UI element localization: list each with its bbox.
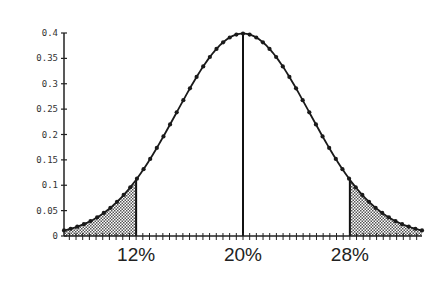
- curve-marker: [108, 206, 112, 210]
- normal-distribution-chart: 00.050.10.150.20.250.30.350.4 12%20%28%: [0, 0, 448, 283]
- curve-marker: [128, 185, 132, 189]
- y-tick-label: 0.25: [36, 104, 58, 114]
- curve-marker: [314, 122, 318, 126]
- curve-marker: [95, 215, 99, 219]
- curve-marker: [115, 200, 119, 204]
- curve-marker: [82, 222, 86, 226]
- x-tick-label: 28%: [331, 244, 369, 265]
- curve-marker: [88, 219, 92, 223]
- curve-marker: [274, 55, 278, 59]
- y-tick-label: 0.05: [36, 206, 58, 216]
- curve-marker: [175, 110, 179, 114]
- curve-marker: [168, 122, 172, 126]
- curve-marker: [393, 219, 397, 223]
- curve-marker: [340, 167, 344, 171]
- curve-marker: [407, 225, 411, 229]
- curve-marker: [221, 40, 225, 44]
- curve-marker: [148, 157, 152, 161]
- curve-marker: [373, 206, 377, 210]
- curve-marker: [307, 110, 311, 114]
- curve-marker: [234, 32, 238, 36]
- curve-marker: [387, 215, 391, 219]
- curve-marker: [141, 167, 145, 171]
- curve-marker: [208, 55, 212, 59]
- curve-marker: [287, 75, 291, 79]
- y-axis-ticks: 00.050.10.150.20.250.30.350.4: [36, 28, 67, 241]
- y-tick-label: 0.2: [42, 130, 58, 140]
- y-tick-label: 0.1: [42, 180, 58, 190]
- curve-marker: [267, 47, 271, 51]
- curve-marker: [400, 222, 404, 226]
- curve-marker: [155, 146, 159, 150]
- curve-marker: [367, 200, 371, 204]
- curve-marker: [248, 32, 252, 36]
- y-tick-label: 0.15: [36, 155, 58, 165]
- curve-marker: [69, 227, 73, 231]
- curve-marker: [188, 86, 192, 90]
- curve-marker: [135, 177, 139, 181]
- curve-marker: [360, 193, 364, 197]
- curve-marker: [102, 211, 106, 215]
- x-tick-label: 20%: [224, 244, 262, 265]
- curve-marker: [122, 193, 126, 197]
- curve-marker: [254, 35, 258, 39]
- curve-marker: [201, 64, 205, 68]
- y-tick-label: 0.35: [36, 53, 58, 63]
- curve-marker: [228, 35, 232, 39]
- curve-marker: [181, 98, 185, 102]
- curve-marker: [281, 64, 285, 68]
- curve-marker: [261, 40, 265, 44]
- curve-marker: [347, 177, 351, 181]
- x-tick-label: 12%: [117, 244, 155, 265]
- curve-marker: [334, 157, 338, 161]
- x-axis-ticks: 12%20%28%: [69, 233, 416, 265]
- curve-marker: [301, 98, 305, 102]
- curve-marker: [354, 185, 358, 189]
- curve-marker: [241, 31, 245, 35]
- curve-marker: [62, 228, 66, 232]
- curve-marker: [327, 146, 331, 150]
- curve-marker: [413, 227, 417, 231]
- curve-marker: [161, 134, 165, 138]
- y-tick-label: 0: [53, 231, 58, 241]
- y-tick-label: 0.4: [42, 28, 58, 38]
- curve-marker: [214, 47, 218, 51]
- curve-marker: [294, 86, 298, 90]
- curve-marker: [380, 211, 384, 215]
- curve-marker: [75, 225, 79, 229]
- y-tick-label: 0.3: [42, 79, 58, 89]
- curve-marker: [194, 75, 198, 79]
- curve-marker: [420, 228, 424, 232]
- curve-marker: [320, 134, 324, 138]
- reference-lines: [136, 34, 350, 236]
